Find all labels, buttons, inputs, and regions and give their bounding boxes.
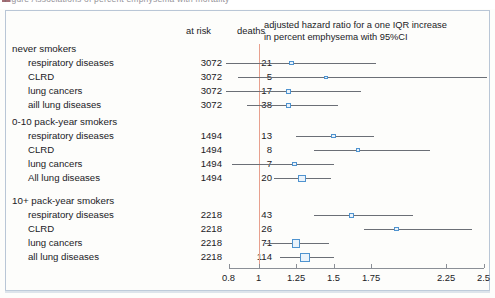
ci-line-0-1 bbox=[238, 77, 488, 78]
forest-plot-layer: 0.811.251.51.752.252.5 bbox=[0, 0, 495, 298]
x-axis-tick-5 bbox=[446, 264, 447, 268]
ci-line-2-1 bbox=[364, 229, 472, 230]
x-axis-tick-label-3: 1.5 bbox=[314, 273, 354, 282]
x-axis-tick-6 bbox=[484, 264, 485, 268]
x-axis-tick-label-1: 1 bbox=[239, 273, 279, 282]
hr-marker-2-0 bbox=[349, 213, 354, 218]
ci-line-0-2 bbox=[226, 91, 361, 92]
ci-line-2-0 bbox=[314, 215, 413, 216]
x-axis-tick-2 bbox=[296, 264, 297, 268]
hr-marker-0-0 bbox=[289, 61, 293, 65]
x-axis-tick-label-2: 1.25 bbox=[276, 273, 316, 282]
hr-marker-0-2 bbox=[286, 89, 291, 94]
ci-line-1-1 bbox=[314, 150, 430, 151]
x-axis-tick-4 bbox=[371, 264, 372, 268]
hr-marker-1-0 bbox=[331, 134, 336, 139]
hr-marker-1-3 bbox=[298, 175, 306, 183]
hr-marker-2-3 bbox=[300, 253, 310, 263]
hr-marker-1-1 bbox=[356, 148, 360, 152]
hr-marker-2-2 bbox=[292, 239, 301, 248]
ci-line-1-2 bbox=[232, 164, 334, 165]
hr-marker-0-1 bbox=[324, 76, 327, 79]
x-axis-tick-label-5: 2.25 bbox=[426, 273, 466, 282]
hr-marker-2-1 bbox=[394, 227, 398, 231]
ci-line-0-0 bbox=[226, 63, 376, 64]
figure-page: Figure Associations of percent emphysema… bbox=[0, 0, 495, 298]
hr-marker-0-3 bbox=[286, 103, 291, 108]
x-axis-tick-1 bbox=[259, 264, 260, 268]
hr-marker-1-2 bbox=[292, 162, 296, 166]
x-axis-tick-label-6: 2.5 bbox=[464, 273, 495, 282]
x-axis-tick-0 bbox=[229, 264, 230, 268]
x-axis-line bbox=[229, 268, 484, 269]
x-axis-tick-3 bbox=[334, 264, 335, 268]
x-axis-tick-label-4: 1.75 bbox=[351, 273, 391, 282]
ci-line-0-3 bbox=[247, 105, 339, 106]
